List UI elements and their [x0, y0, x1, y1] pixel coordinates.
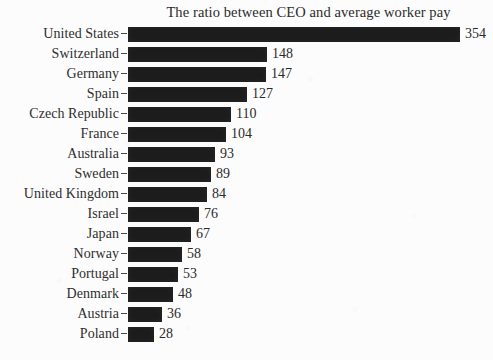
bar-row: United Kingdom84: [0, 186, 493, 206]
bar-value-label: 104: [231, 126, 252, 142]
bar-shape: [128, 267, 178, 282]
bar-value-label: 147: [271, 66, 292, 82]
axis-tick-mark: [121, 73, 127, 74]
axis-tick-mark: [121, 153, 127, 154]
axis-tick-mark: [121, 193, 127, 194]
bar-shape: [128, 247, 182, 262]
bar-row: Germany147: [0, 66, 493, 86]
bar-shape: [128, 127, 226, 142]
category-label: United States: [0, 26, 119, 42]
bar-shape: [128, 227, 191, 242]
bar-shape: [128, 87, 247, 102]
axis-tick-mark: [121, 213, 127, 214]
category-label: Portugal: [0, 266, 119, 282]
bar-shape: [128, 187, 207, 202]
bar-shape: [128, 307, 162, 322]
bar-row: Japan67: [0, 226, 493, 246]
bar-row: Switzerland148: [0, 46, 493, 66]
bar-row: Portugal53: [0, 266, 493, 286]
bar-row: Spain127: [0, 86, 493, 106]
category-label: United Kingdom: [0, 186, 119, 202]
axis-tick-mark: [121, 53, 127, 54]
bar-value-label: 48: [178, 286, 192, 302]
bar-row: Austria36: [0, 306, 493, 326]
bar-shape: [128, 47, 267, 62]
bar-value-label: 93: [220, 146, 234, 162]
bar-shape: [128, 67, 266, 82]
category-label: France: [0, 126, 119, 142]
bar-row: Israel76: [0, 206, 493, 226]
bar-shape: [128, 287, 173, 302]
axis-tick-mark: [121, 113, 127, 114]
category-label: Austria: [0, 306, 119, 322]
axis-tick-mark: [121, 173, 127, 174]
axis-tick-mark: [121, 333, 127, 334]
bar-row: Czech Republic110: [0, 106, 493, 126]
bar-shape: [128, 107, 231, 122]
category-label: Poland: [0, 326, 119, 342]
bar-shape: [128, 147, 215, 162]
bar-value-label: 58: [187, 246, 201, 262]
category-label: Switzerland: [0, 46, 119, 62]
bar-row: Poland28: [0, 326, 493, 346]
bar-row: Sweden89: [0, 166, 493, 186]
axis-tick-mark: [121, 33, 127, 34]
bar-value-label: 148: [272, 46, 293, 62]
category-label: Denmark: [0, 286, 119, 302]
category-label: Norway: [0, 246, 119, 262]
bar-value-label: 36: [167, 306, 181, 322]
axis-tick-mark: [121, 253, 127, 254]
bar-row: Australia93: [0, 146, 493, 166]
bar-value-label: 28: [159, 326, 173, 342]
bar-row: United States354: [0, 26, 493, 46]
bar-chart-figure: The ratio between CEO and average worker…: [0, 0, 493, 360]
bar-value-label: 53: [183, 266, 197, 282]
category-label: Sweden: [0, 166, 119, 182]
bar-row: France104: [0, 126, 493, 146]
bar-value-label: 354: [465, 26, 486, 42]
category-label: Czech Republic: [0, 106, 119, 122]
axis-tick-mark: [121, 93, 127, 94]
bar-shape: [128, 167, 211, 182]
chart-plot-area: United States354Switzerland148Germany147…: [0, 26, 493, 346]
category-label: Japan: [0, 226, 119, 242]
bar-value-label: 67: [196, 226, 210, 242]
bar-value-label: 76: [204, 206, 218, 222]
bar-value-label: 127: [252, 86, 273, 102]
bar-value-label: 89: [216, 166, 230, 182]
bar-value-label: 84: [212, 186, 226, 202]
category-label: Spain: [0, 86, 119, 102]
bar-row: Denmark48: [0, 286, 493, 306]
axis-tick-mark: [121, 313, 127, 314]
bar-row: Norway58: [0, 246, 493, 266]
axis-tick-mark: [121, 233, 127, 234]
axis-tick-mark: [121, 133, 127, 134]
bar-shape: [128, 207, 199, 222]
category-label: Germany: [0, 66, 119, 82]
category-label: Israel: [0, 206, 119, 222]
category-label: Australia: [0, 146, 119, 162]
axis-tick-mark: [121, 273, 127, 274]
axis-tick-mark: [121, 293, 127, 294]
bar-value-label: 110: [236, 106, 257, 122]
bar-shape: [128, 27, 460, 42]
bar-shape: [128, 327, 154, 342]
chart-title: The ratio between CEO and average worker…: [128, 2, 489, 22]
